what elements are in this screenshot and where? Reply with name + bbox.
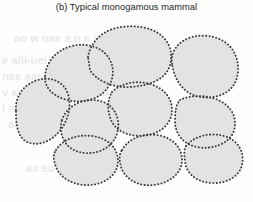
panel-caption: (b) Typical monogamous mammal — [0, 2, 253, 12]
bottom-right-territory-fill — [184, 134, 242, 183]
territory-cluster-diagram — [0, 0, 253, 202]
figure-panel: e alli-uei Seu/ nes aasonne e sa v asuni… — [0, 0, 253, 202]
cell-fill-group — [16, 26, 243, 185]
